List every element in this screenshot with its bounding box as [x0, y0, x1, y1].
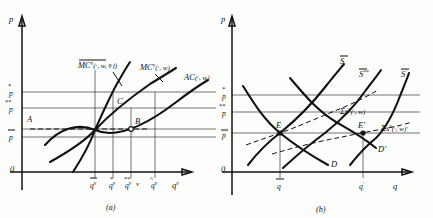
equilibrium-E-marker — [277, 130, 282, 135]
y-tick-p-star-a: * p — [8, 82, 13, 98]
y-tick-p-star-b: * p — [221, 85, 226, 101]
x-tick-q-bar-b: q — [276, 179, 284, 191]
x-tick-label-q-hat: qv — [151, 180, 158, 190]
figure-container: MCv(·, w, v̄ f) MCv(·, w) AC(·, w) A B C… — [0, 0, 433, 218]
x-tick-label-q-star: qv — [109, 180, 116, 190]
y-tick-label-p-bar-b: p — [221, 131, 226, 140]
star-mark-b1: * — [222, 85, 225, 92]
equilibrium-E-label: E — [275, 120, 282, 130]
supply-sbar-starstar-label-group: S** — [359, 69, 369, 79]
sum-s-prime-curve-label: Σsv(·, w)' — [380, 123, 408, 133]
demand-D-label: D — [330, 159, 338, 169]
x-tick-q-hat-a: ^ qv — [150, 175, 158, 190]
x-axis-label-b: q — [393, 181, 398, 191]
point-B-label: B — [135, 116, 140, 126]
point-C-label: C — [117, 96, 123, 106]
equilibrium-E-prime-marker — [360, 130, 365, 135]
y-tick-label-p-star: p — [8, 89, 13, 98]
equilibrium-E-prime-label: E' — [357, 120, 365, 130]
y-tick-p-bar-b: p — [221, 130, 228, 140]
panel-b-caption: (b) — [316, 205, 326, 214]
panel-b: S S** S' Σsv(·, w) Σsv(·, w)' D D' E E' … — [219, 14, 420, 214]
mc-bar-curve — [73, 62, 130, 172]
supply-sbar-starstar-label: S** — [359, 69, 369, 79]
x-tick-q-starstar-a: ** qv v — [124, 175, 140, 190]
x-tick-q-prime-b: q' — [359, 181, 365, 191]
ac-curve-label: AC(·, w) — [183, 72, 210, 82]
panel-a: MCv(·, w, v̄ f) MCv(·, w) AC(·, w) A B C… — [5, 14, 216, 212]
x-axis-label-a: qv — [172, 180, 179, 190]
star-mark-1: * — [8, 82, 11, 89]
y-tick-label-p-starstar-b: p — [221, 109, 226, 118]
y-tick-label-p-starstar: p — [8, 105, 13, 114]
star-mark-2: ** — [5, 98, 12, 105]
supply-sbar-label-group: S — [340, 56, 348, 66]
star-mark-b2: ** — [219, 102, 226, 109]
y-tick-label-p-bar: p — [8, 133, 13, 142]
x-tick-label-q-prime-b: q' — [359, 181, 365, 191]
mc-curve-label: MCv(·, w) — [139, 62, 170, 72]
figure-svg: MCv(·, w, v̄ f) MCv(·, w) AC(·, w) A B C… — [0, 0, 433, 218]
point-A-label: A — [26, 114, 33, 124]
mc-bar-curve-label: MCv(·, w, v̄ f) — [77, 60, 118, 70]
x-tick-label-q-starstar: qv — [125, 180, 132, 190]
x-tick-q-star-a: * qv — [109, 175, 116, 190]
y-tick-label-p-star-b: p — [221, 92, 226, 101]
ac-curve — [45, 80, 208, 145]
panel-a-caption: (a) — [106, 203, 116, 212]
x-tick-label-q-bar: qv — [90, 180, 97, 190]
y-tick-p-starstar-a: ** p — [5, 98, 13, 114]
y-tick-p-bar-a: p — [8, 130, 15, 142]
y-tick-p-starstar-b: ** p — [219, 102, 226, 118]
mc-bar-curve-label-group: MCv(·, w, v̄ f) — [77, 60, 122, 86]
mc-curve-label-group: MCv(·, w) — [139, 62, 170, 82]
x-tick-label-q-bar-b: q — [277, 182, 281, 191]
point-B-marker — [129, 127, 134, 132]
demand-D-prime-label: D' — [377, 144, 386, 154]
y-axis-label-b: p — [220, 14, 225, 24]
sum-s-curve-label: Σsv(·, w) — [339, 106, 366, 116]
y-axis-label-a: p — [8, 14, 13, 24]
ac-curve-label-group: AC(·, w) — [183, 72, 210, 82]
x-tick-q-bar-a: qv — [90, 178, 97, 190]
point-v-label: v — [136, 180, 140, 188]
